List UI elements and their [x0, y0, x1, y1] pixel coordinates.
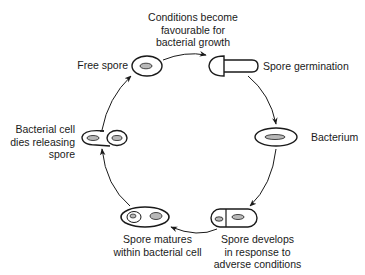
label-bacterium: Bacterium [311, 131, 365, 144]
arrow-dies-to-free [102, 76, 131, 130]
lysing-cell-icon [82, 131, 127, 147]
arrow-matures-to-dies [102, 149, 130, 206]
arrow-free-to-germination [163, 54, 206, 60]
developing-spore-icon [211, 209, 257, 227]
label-free-spore: Free spore [60, 59, 128, 72]
free-spore-icon [132, 56, 162, 76]
arrow-germination-to-bacterium [248, 76, 276, 124]
label-cell-dies: Bacterial cell dies releasing spore [0, 123, 75, 161]
label-spore-matures: Spore matures within bacterial cell [95, 233, 220, 258]
arrow-bacterium-to-develops [250, 149, 276, 206]
germinating-spore-icon [209, 56, 258, 76]
label-spore-germination: Spore germination [263, 60, 363, 73]
bacterium-icon [255, 128, 297, 146]
label-favourable-conditions: Conditions become favourable for bacteri… [128, 11, 258, 49]
maturing-spore-icon [121, 207, 169, 227]
